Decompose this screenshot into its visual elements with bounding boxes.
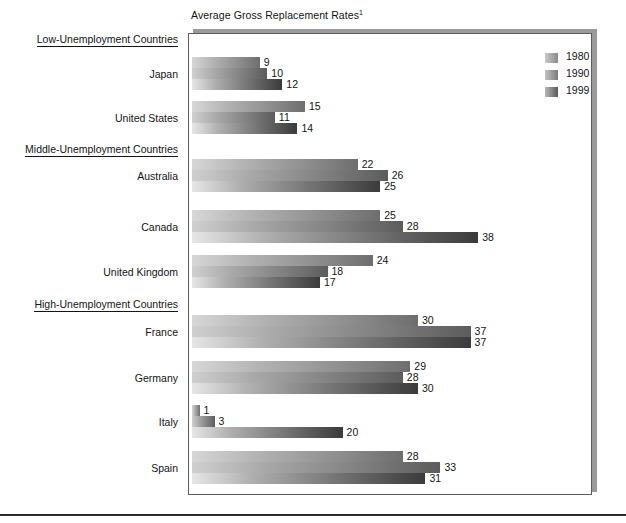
- group-heading: Low-Unemployment Countries: [37, 33, 178, 47]
- country-label: United Kingdom: [103, 266, 178, 278]
- bar-value-label: 17: [324, 277, 336, 288]
- legend-item-1980: 1980: [545, 50, 589, 67]
- bar-value-label: 18: [332, 266, 344, 277]
- bar-united-kingdom-1980: [192, 255, 373, 266]
- country-label: Italy: [159, 416, 178, 428]
- bar-value-label: 28: [407, 372, 419, 383]
- country-label: Canada: [141, 221, 178, 233]
- chart-title-footnote-marker: 1: [359, 9, 363, 16]
- legend-item-1990: 1990: [545, 67, 589, 84]
- bar-value-label: 33: [444, 462, 456, 473]
- bar-united-kingdom-1999: [192, 277, 320, 288]
- legend-swatch-icon: [545, 53, 558, 63]
- bar-france-1999: [192, 337, 471, 348]
- bar-germany-1980: [192, 361, 410, 372]
- bar-italy-1980: [192, 405, 200, 416]
- bar-germany-1999: [192, 383, 418, 394]
- bar-value-label: 37: [475, 326, 487, 337]
- bar-canada-1990: [192, 221, 403, 232]
- bar-japan-1980: [192, 57, 260, 68]
- legend: 198019901999: [545, 50, 589, 101]
- bar-value-label: 10: [271, 68, 283, 79]
- bar-value-label: 24: [377, 255, 389, 266]
- bar-value-label: 25: [384, 210, 396, 221]
- legend-swatch-icon: [545, 70, 558, 80]
- group-heading: High-Unemployment Countries: [34, 298, 178, 312]
- country-label: Australia: [137, 170, 178, 182]
- country-label: United States: [115, 112, 178, 124]
- bar-united-kingdom-1990: [192, 266, 328, 277]
- bar-value-label: 28: [407, 451, 419, 462]
- bar-united-states-1990: [192, 112, 275, 123]
- bar-france-1980: [192, 315, 418, 326]
- bar-value-label: 26: [392, 170, 404, 181]
- country-label: Spain: [151, 462, 178, 474]
- bar-value-label: 37: [475, 337, 487, 348]
- legend-label: 1999: [566, 84, 589, 96]
- bar-germany-1990: [192, 372, 403, 383]
- bar-australia-1980: [192, 159, 358, 170]
- legend-label: 1980: [566, 50, 589, 62]
- bar-australia-1999: [192, 181, 380, 192]
- chart-title: Average Gross Replacement Rates1: [191, 9, 363, 21]
- bar-value-label: 11: [279, 112, 290, 123]
- bar-value-label: 30: [422, 383, 434, 394]
- bar-australia-1990: [192, 170, 388, 181]
- bar-canada-1999: [192, 232, 478, 243]
- country-label: Japan: [149, 68, 178, 80]
- category-label-column: Low-Unemployment CountriesJapanUnited St…: [0, 33, 186, 495]
- bar-value-label: 12: [286, 79, 298, 90]
- footer-divider: [0, 514, 626, 516]
- bar-value-label: 3: [219, 416, 225, 427]
- country-label: Germany: [135, 372, 178, 384]
- bar-italy-1999: [192, 427, 343, 438]
- group-heading: Middle-Unemployment Countries: [25, 143, 178, 157]
- bar-spain-1990: [192, 462, 440, 473]
- bar-united-states-1999: [192, 123, 297, 134]
- bar-value-label: 22: [362, 159, 374, 170]
- bar-japan-1999: [192, 79, 282, 90]
- bar-value-label: 14: [301, 123, 313, 134]
- bar-value-label: 20: [347, 427, 359, 438]
- bar-value-label: 29: [414, 361, 426, 372]
- plot-area: 9101215111422262525283824181730373729283…: [189, 34, 591, 494]
- country-label: France: [145, 326, 178, 338]
- bar-japan-1990: [192, 68, 267, 79]
- bar-spain-1980: [192, 451, 403, 462]
- bar-value-label: 1: [204, 405, 210, 416]
- legend-label: 1990: [566, 67, 589, 79]
- bar-value-label: 31: [429, 473, 441, 484]
- chart-figure: Average Gross Replacement Rates1 Low-Une…: [0, 0, 626, 523]
- bar-value-label: 30: [422, 315, 434, 326]
- chart-title-text: Average Gross Replacement Rates: [191, 9, 359, 21]
- bar-spain-1999: [192, 473, 425, 484]
- bar-canada-1980: [192, 210, 380, 221]
- bar-italy-1990: [192, 416, 215, 427]
- plot-frame: 9101215111422262525283824181730373729283…: [188, 33, 592, 495]
- bar-value-label: 25: [384, 181, 396, 192]
- bar-value-label: 38: [482, 232, 494, 243]
- bar-value-label: 9: [264, 57, 270, 68]
- bar-france-1990: [192, 326, 471, 337]
- legend-swatch-icon: [545, 87, 558, 97]
- bar-value-label: 15: [309, 101, 321, 112]
- bar-value-label: 28: [407, 221, 419, 232]
- legend-item-1999: 1999: [545, 84, 589, 101]
